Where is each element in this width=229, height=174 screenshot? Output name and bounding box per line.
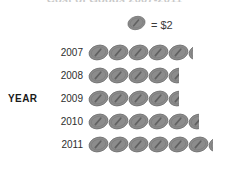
coin-icon-partial bbox=[188, 44, 193, 61]
coin-icon bbox=[108, 90, 129, 107]
row-label-2010: 2010 bbox=[55, 110, 83, 133]
row-label-2008: 2008 bbox=[55, 64, 83, 87]
row-icons bbox=[88, 133, 212, 156]
legend: = $2 bbox=[127, 15, 173, 35]
coin-icon bbox=[128, 44, 149, 61]
coin-icon bbox=[168, 136, 189, 153]
coin-icon bbox=[148, 136, 169, 153]
row-icons bbox=[88, 110, 198, 133]
legend-label: = $2 bbox=[151, 19, 173, 31]
coin-icon bbox=[128, 67, 149, 84]
coin-icon bbox=[88, 67, 109, 84]
coin-icon bbox=[168, 44, 189, 61]
coin-icon bbox=[108, 67, 129, 84]
coin-icon bbox=[88, 136, 109, 153]
coin-icon bbox=[128, 136, 149, 153]
coin-icon-partial bbox=[168, 67, 179, 84]
coin-icon bbox=[128, 113, 149, 130]
coin-icon bbox=[88, 113, 109, 130]
coin-icon bbox=[108, 113, 129, 130]
coin-icon-partial bbox=[188, 113, 199, 130]
coin-icon bbox=[148, 67, 169, 84]
chart-row: 2011 bbox=[0, 133, 229, 156]
coin-icon bbox=[88, 90, 109, 107]
chart-row: 2009 bbox=[0, 87, 229, 110]
coin-icon-partial bbox=[208, 136, 213, 153]
coin-icon bbox=[168, 113, 189, 130]
coin-icon bbox=[127, 15, 146, 35]
coin-icon bbox=[108, 44, 129, 61]
chart-row: 2010 bbox=[0, 110, 229, 133]
chart-title: Cost of Goods 2007-2011 bbox=[0, 0, 229, 2]
pictograph-chart: Cost of Goods 2007-2011 = $2 YEAR 200720… bbox=[0, 0, 229, 174]
coin-icon bbox=[148, 90, 169, 107]
row-icons bbox=[88, 64, 178, 87]
coin-icon bbox=[108, 136, 129, 153]
coin-icon bbox=[188, 136, 209, 153]
coin-icon bbox=[148, 44, 169, 61]
row-label-2011: 2011 bbox=[55, 133, 83, 156]
chart-row: 2007 bbox=[0, 41, 229, 64]
chart-row: 2008 bbox=[0, 64, 229, 87]
row-icons bbox=[88, 87, 178, 110]
row-label-2007: 2007 bbox=[55, 41, 83, 64]
plot-area: 20072008200920102011 bbox=[0, 41, 229, 156]
coin-icon-partial bbox=[168, 90, 179, 107]
coin-icon bbox=[148, 113, 169, 130]
coin-icon bbox=[128, 90, 149, 107]
row-label-2009: 2009 bbox=[55, 87, 83, 110]
coin-icon bbox=[88, 44, 109, 61]
row-icons bbox=[88, 41, 192, 64]
